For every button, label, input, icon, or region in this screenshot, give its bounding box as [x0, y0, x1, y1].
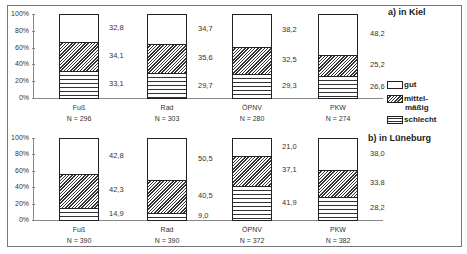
stacked-bar: [318, 138, 358, 221]
sample-size-label: N = 382: [308, 237, 368, 244]
value-label: 29,7: [198, 81, 213, 90]
legend-item-mittelmaessig-line2: mäßig: [405, 103, 429, 112]
stacked-bar: [59, 14, 99, 99]
bar-segment-bad: [319, 76, 357, 98]
chart-title: a) in Kiel: [388, 7, 426, 17]
y-tick-mark: [32, 64, 35, 65]
y-tick-label: 60%: [3, 167, 29, 174]
y-tick-mark: [32, 31, 35, 32]
value-label: 29,3: [282, 81, 297, 90]
category-label: PKW: [308, 104, 368, 111]
bar-segment-mid: [233, 47, 271, 74]
stacked-bar: [147, 14, 187, 99]
value-label: 32,5: [282, 55, 297, 64]
sample-size-label: N = 372: [222, 237, 282, 244]
bar-segment-gut: [60, 139, 98, 174]
bar-segment-bad: [233, 186, 271, 220]
sample-size-label: N = 280: [222, 115, 282, 122]
category-label: Fuß: [49, 226, 109, 233]
swatch-mittelmaessig-icon: [387, 95, 403, 103]
bar-segment-bad: [148, 73, 186, 98]
bar-segment-mid: [60, 174, 98, 208]
bar-segment-gut: [148, 139, 186, 180]
value-label: 21,0: [282, 142, 297, 151]
swatch-schlecht-icon: [387, 116, 403, 124]
y-tick-mark: [32, 220, 35, 221]
stacked-bar: [59, 138, 99, 221]
value-label: 37,1: [282, 165, 297, 174]
y-tick-label: 60%: [3, 44, 29, 51]
value-label: 35,6: [198, 53, 213, 62]
value-label: 50,5: [198, 154, 213, 163]
y-tick-label: 20%: [3, 77, 29, 84]
legend-label-schlecht: schlecht: [404, 115, 436, 124]
value-label: 38,0: [370, 149, 385, 158]
value-label: 42,8: [109, 151, 124, 160]
bar-segment-gut: [148, 15, 186, 44]
bar-segment-bad: [60, 71, 98, 98]
y-tick-label: 80%: [3, 27, 29, 34]
y-tick-mark: [32, 204, 35, 205]
stacked-bar: [232, 138, 272, 221]
bar-segment-bad: [233, 74, 271, 98]
legend-label-gut: gut: [404, 80, 416, 89]
category-label: PKW: [308, 226, 368, 233]
value-label: 42,3: [109, 185, 124, 194]
category-label: ÖPNV: [222, 226, 282, 233]
legend-item-mittelmaessig: mittel-: [387, 94, 428, 103]
legend-label-maessig: mäßig: [405, 103, 429, 112]
sample-size-label: N = 274: [308, 115, 368, 122]
bar-segment-gut: [60, 15, 98, 42]
value-label: 34,7: [198, 24, 213, 33]
bar-segment-mid: [319, 55, 357, 76]
value-label: 48,2: [370, 29, 385, 38]
y-tick-mark: [32, 138, 35, 139]
y-tick-mark: [32, 187, 35, 188]
legend-item-gut: gut: [387, 80, 416, 89]
y-tick-mark: [32, 171, 35, 172]
stacked-bar: [318, 14, 358, 99]
y-tick-mark: [32, 81, 35, 82]
sample-size-label: N = 390: [49, 237, 109, 244]
y-tick-label: 40%: [3, 60, 29, 67]
bar-segment-mid: [148, 44, 186, 74]
y-tick-label: 100%: [3, 10, 29, 17]
category-label: ÖPNV: [222, 104, 282, 111]
y-tick-mark: [32, 48, 35, 49]
value-label: 33,8: [370, 178, 385, 187]
value-label: 32,8: [109, 23, 124, 32]
y-axis: [33, 138, 34, 220]
value-label: 25,2: [370, 60, 385, 69]
y-tick-label: 80%: [3, 150, 29, 157]
y-tick-label: 20%: [3, 200, 29, 207]
y-tick-mark: [32, 14, 35, 15]
value-label: 40,5: [198, 191, 213, 200]
stacked-bar: [232, 14, 272, 99]
category-label: Rad: [137, 226, 197, 233]
y-tick-mark: [32, 98, 35, 99]
bar-segment-bad: [148, 213, 186, 220]
y-tick-label: 0%: [3, 216, 29, 223]
value-label: 26,6: [370, 82, 385, 91]
value-label: 38,2: [282, 25, 297, 34]
category-label: Rad: [137, 104, 197, 111]
value-label: 41,9: [282, 198, 297, 207]
bar-segment-gut: [319, 15, 357, 55]
y-tick-label: 100%: [3, 134, 29, 141]
bar-segment-gut: [233, 15, 271, 47]
value-label: 34,1: [109, 51, 124, 60]
value-label: 28,2: [370, 203, 385, 212]
sample-size-label: N = 390: [137, 237, 197, 244]
bar-segment-mid: [233, 156, 271, 186]
value-label: 9,0: [198, 211, 208, 220]
bar-segment-bad: [319, 197, 357, 220]
bar-segment-gut: [319, 139, 357, 170]
value-label: 14,9: [109, 209, 124, 218]
y-tick-label: 0%: [3, 94, 29, 101]
sample-size-label: N = 303: [137, 115, 197, 122]
legend-item-schlecht: schlecht: [387, 115, 436, 124]
stacked-bar: [147, 138, 187, 221]
chart-title: b) in Lüneburg: [368, 133, 431, 143]
y-axis: [33, 14, 34, 98]
swatch-gut-icon: [387, 81, 403, 89]
